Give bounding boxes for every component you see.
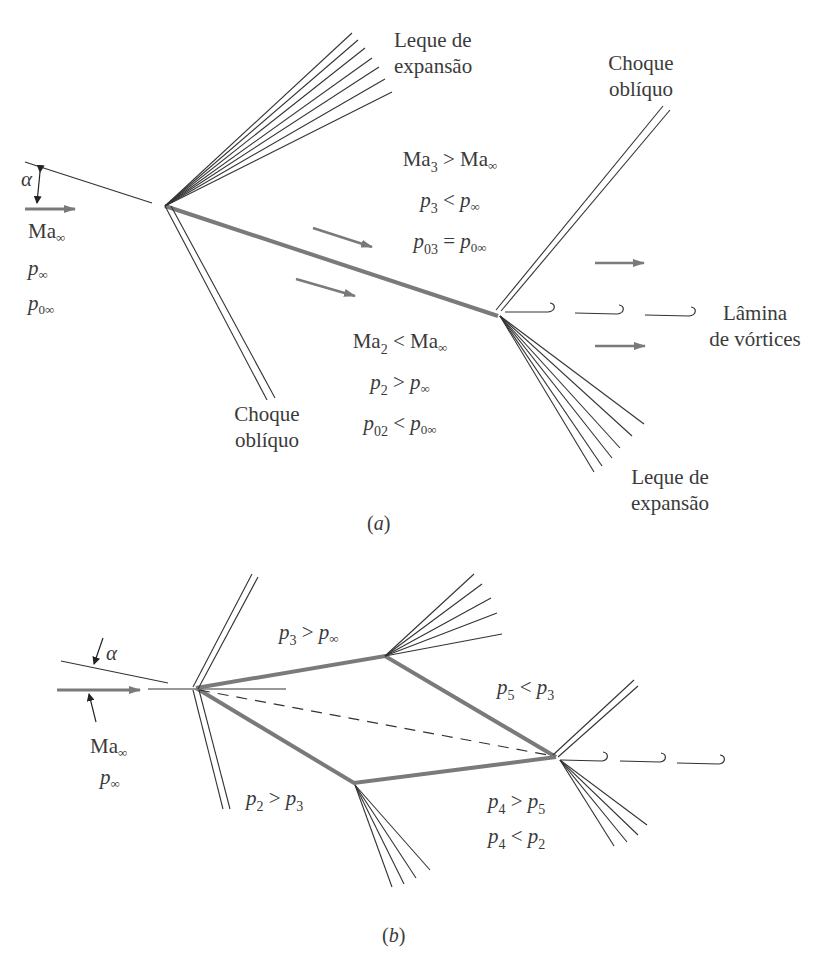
region3-eq-pressure: p3 < p∞ <box>380 181 520 222</box>
label-base: Ma <box>90 734 118 758</box>
flow-arrow-icon <box>296 279 355 296</box>
label-subscript: 0∞ <box>39 302 55 317</box>
label-line: Lâmina <box>700 300 810 326</box>
oblique-shock-trailing-edge <box>496 106 670 311</box>
oblique-shock-leading-upper <box>193 574 258 689</box>
region4-conditions: p4 > p5 p4 < p2 <box>488 785 545 855</box>
expansion-fan-trailing-edge <box>560 760 647 846</box>
oblique-shock-trailing-edge <box>553 680 638 757</box>
region3-condition: p3 > p∞ <box>279 619 339 648</box>
oblique-shock-leading-lower <box>193 690 230 809</box>
label-line: expansão <box>394 53 472 79</box>
region4-eq-1: p4 > p5 <box>488 785 545 820</box>
expansion-fan-bottom-label: Leque de expansão <box>620 464 720 516</box>
freestream-total-pressure-label: p0∞ <box>28 290 54 319</box>
alpha-angle-arrow-icon <box>37 172 40 203</box>
region2-eq-total-pressure: p02 < p0∞ <box>330 404 470 445</box>
panel-b <box>57 574 724 887</box>
region2-eq-pressure: p2 > p∞ <box>330 363 470 404</box>
label-subscript: ∞ <box>111 776 120 791</box>
alpha-lower-arrow-icon <box>89 694 96 722</box>
alpha-label: α <box>21 166 32 192</box>
alpha-upper-arrow-icon <box>94 638 103 664</box>
oblique-shock-top-label: Choque oblíquo <box>596 50 686 102</box>
label-line: expansão <box>620 490 720 516</box>
oblique-shock-bottom-label: Choque oblíquo <box>222 401 312 453</box>
label-line: de vórtices <box>700 326 810 352</box>
freestream-mach-label: Ma∞ <box>90 733 127 762</box>
expansion-fan-top-label: Leque de expansão <box>394 27 472 79</box>
vortex-sheet-label: Lâmina de vórtices <box>700 300 810 352</box>
freestream-pressure-label: p∞ <box>28 255 48 284</box>
region3-eq-total-pressure: p03 = p0∞ <box>380 222 520 263</box>
label-line: oblíquo <box>222 427 312 453</box>
expansion-fan-trailing-edge <box>500 316 644 472</box>
label-base: p <box>28 291 39 315</box>
freestream-reference-line <box>25 162 152 203</box>
region2-eq-mach: Ma2 < Ma∞ <box>330 322 470 363</box>
label-subscript: ∞ <box>118 745 127 760</box>
panel-a-caption: (a) <box>367 512 390 535</box>
region2-condition: p2 > p3 <box>246 785 303 814</box>
label-line: oblíquo <box>596 76 686 102</box>
flow-arrow-icon <box>313 228 372 247</box>
label-base: Ma <box>28 219 56 243</box>
label-base: p <box>28 256 39 280</box>
expansion-fan-upper-vertex <box>385 574 502 656</box>
label-line: Choque <box>222 401 312 427</box>
label-subscript: ∞ <box>39 267 48 282</box>
label-line: Choque <box>596 50 686 76</box>
panel-b-caption: (b) <box>382 924 405 947</box>
expansion-fan-lower-vertex <box>355 785 430 887</box>
label-line: Leque de <box>394 27 472 53</box>
label-base: p <box>100 765 111 789</box>
vortex-sheet <box>561 752 724 764</box>
alpha-label: α <box>106 640 117 666</box>
vortex-sheet <box>505 303 695 316</box>
expansion-fan-leading-edge <box>165 33 392 206</box>
label-line: Leque de <box>620 464 720 490</box>
region3-eq-mach: Ma3 > Ma∞ <box>380 140 520 181</box>
freestream-mach-label: Ma∞ <box>28 218 65 247</box>
region2-conditions: Ma2 < Ma∞ p2 > p∞ p02 < p0∞ <box>330 322 470 445</box>
region4-eq-2: p4 < p2 <box>488 820 545 855</box>
label-subscript: ∞ <box>56 230 65 245</box>
region3-conditions: Ma3 > Ma∞ p3 < p∞ p03 = p0∞ <box>380 140 520 263</box>
freestream-pressure-label: p∞ <box>100 764 120 793</box>
region5-condition: p5 < p3 <box>497 674 554 703</box>
